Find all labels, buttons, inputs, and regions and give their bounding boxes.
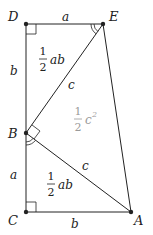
side-label-BA: c [82, 159, 89, 173]
angle-arc-E-inner-icon [94, 24, 98, 31]
side-label-BE: c [68, 78, 75, 92]
area-expression: ab [50, 53, 65, 67]
side-label-CA: b [71, 217, 79, 231]
side-label-BC: a [10, 168, 17, 182]
area-expression: c [85, 113, 92, 127]
point-D [24, 22, 28, 26]
area-exponent: 2 [91, 110, 97, 119]
edge-EA [103, 24, 131, 212]
fraction-denominator: 2 [75, 121, 82, 134]
fraction-numerator: 1 [40, 45, 47, 58]
vertex-label-D: D [7, 9, 19, 24]
vertex-label-C: C [8, 213, 18, 228]
fraction-numerator: 1 [75, 105, 82, 118]
point-A [129, 210, 133, 214]
point-E [101, 22, 105, 26]
fraction-denominator: 2 [40, 61, 47, 74]
trapezoid-diagram: D E B C A a b a b c c 1 2 ab 1 2 ab 1 2 … [0, 0, 153, 235]
side-label-DE: a [62, 10, 69, 24]
area-label-middle-triangle: 1 2 c 2 [74, 105, 97, 134]
area-label-top-triangle: 1 2 ab [39, 45, 65, 74]
vertex-label-A: A [133, 213, 143, 228]
point-B [24, 131, 28, 135]
vertex-label-B: B [7, 126, 18, 141]
area-label-bottom-triangle: 1 2 ab [47, 170, 73, 199]
edge-BA [26, 133, 131, 212]
vertex-label-E: E [108, 9, 119, 24]
angle-arc-B-inner-icon [26, 138, 33, 142]
fraction-denominator: 2 [48, 186, 55, 199]
fraction-numerator: 1 [48, 170, 55, 183]
side-label-DB: b [10, 64, 18, 78]
right-angle-B-icon [32, 125, 40, 139]
right-angle-markers [26, 24, 40, 212]
point-C [24, 210, 28, 214]
area-expression: ab [58, 178, 73, 192]
